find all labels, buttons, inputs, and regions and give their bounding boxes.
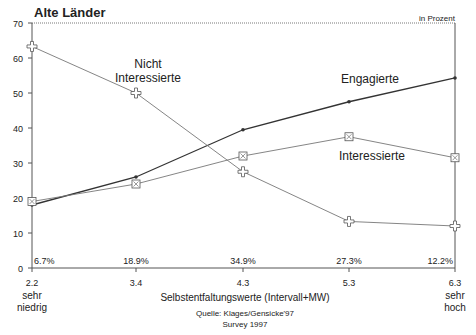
data-point [238, 167, 248, 177]
x-end-label-low: sehr [22, 290, 42, 301]
unit-label: in Prozent [419, 14, 456, 23]
source-line-1: Quelle: Klages/Gensicke'97 [196, 309, 295, 318]
series-label: Engagierte [341, 72, 399, 86]
y-tick-label: 20 [13, 194, 23, 204]
data-point [131, 88, 141, 98]
group-share-label: 27.3% [336, 256, 362, 266]
y-tick-label: 30 [13, 159, 23, 169]
line-chart: 0102030405060702.26.7%3.418.9%4.334.9%5.… [0, 0, 476, 335]
data-point [451, 154, 459, 162]
x-end-label-high: hoch [444, 302, 466, 313]
group-share-label: 12.2% [427, 256, 453, 266]
data-point [27, 41, 37, 51]
x-tick-label: 3.4 [130, 278, 143, 288]
source-line-2: Survey 1997 [223, 320, 268, 329]
data-point [239, 152, 247, 160]
x-end-label-low: niedrig [17, 302, 47, 313]
data-point [132, 180, 140, 188]
y-tick-label: 0 [18, 264, 23, 274]
series-label: Nicht [134, 57, 162, 71]
y-tick-label: 70 [13, 19, 23, 29]
data-point [241, 128, 245, 132]
cross-marker [238, 167, 248, 177]
series-label: Interessierte [339, 149, 405, 163]
x-tick-label: 2.2 [26, 278, 39, 288]
y-tick-label: 50 [13, 89, 23, 99]
chart-title: Alte Länder [34, 5, 106, 20]
y-tick-label: 60 [13, 54, 23, 64]
y-tick-label: 40 [13, 124, 23, 134]
cross-marker [27, 41, 37, 51]
group-share-label: 6.7% [34, 256, 55, 266]
series-group: EngagierteInteressierteNichtInteressiert… [27, 41, 460, 231]
data-point [345, 133, 353, 141]
x-end-label-high: sehr [445, 290, 465, 301]
axes: 0102030405060702.26.7%3.418.9%4.334.9%5.… [13, 19, 466, 313]
x-tick-label: 4.3 [237, 278, 250, 288]
x-tick-label: 6.3 [449, 278, 462, 288]
data-point [344, 216, 354, 226]
data-point [134, 175, 138, 179]
cross-marker [344, 216, 354, 226]
series-line-engagierte [32, 78, 455, 205]
cross-marker [131, 88, 141, 98]
group-share-label: 18.9% [123, 256, 149, 266]
x-axis-label: Selbstentfaltungswerte (Intervall+MW) [160, 292, 329, 303]
cross-marker [450, 221, 460, 231]
x-tick-label: 5.3 [343, 278, 356, 288]
data-point [28, 198, 36, 206]
group-share-label: 34.9% [230, 256, 256, 266]
data-point [450, 221, 460, 231]
data-point [453, 76, 457, 80]
y-tick-label: 10 [13, 229, 23, 239]
data-point [347, 100, 351, 104]
series-label: Interessierte [115, 71, 181, 85]
